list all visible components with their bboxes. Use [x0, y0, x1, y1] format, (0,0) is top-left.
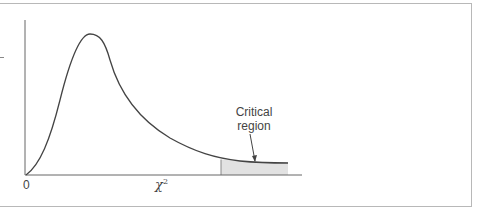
- critical-label-line2: region: [224, 119, 284, 133]
- critical-region-label: Critical region: [224, 105, 284, 133]
- x-axis-label: χ2: [155, 177, 168, 192]
- superscript: 2: [163, 177, 168, 186]
- chi-symbol: χ: [155, 177, 163, 192]
- arrow-head-icon: [252, 155, 257, 162]
- critical-label-line1: Critical: [224, 105, 284, 119]
- origin-label: 0: [23, 178, 30, 192]
